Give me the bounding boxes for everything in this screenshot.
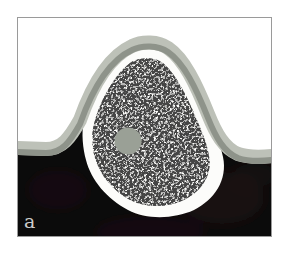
figure-panel: a [0, 0, 291, 253]
nucleus-circle [115, 128, 142, 155]
blotch [233, 163, 277, 187]
panel-label: a [24, 210, 35, 232]
histology-figure: a [0, 0, 291, 253]
blotch [28, 170, 88, 210]
